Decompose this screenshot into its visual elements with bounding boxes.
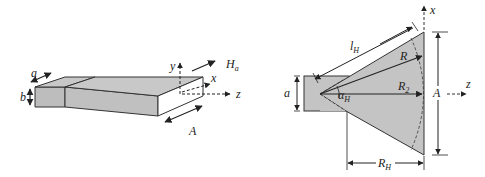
right-cross-section: x lH R R2 αH a A z RH (284, 3, 471, 172)
left-3d-horn: a b y x z Ha A (20, 57, 241, 138)
label-R: R (399, 49, 408, 63)
label-RH: RH (377, 156, 392, 172)
label-A-right: A (432, 86, 441, 100)
label-z-right: z (465, 77, 471, 91)
label-lh: lH (350, 39, 360, 55)
label-a-right: a (284, 86, 290, 100)
label-x: x (210, 71, 217, 85)
label-a: a (31, 66, 37, 80)
label-z: z (235, 87, 241, 101)
label-A: A (188, 124, 197, 138)
label-ha: Ha (225, 57, 239, 73)
label-x-right: x (429, 3, 436, 17)
ha-field-arrow (192, 61, 215, 71)
waveguide-front-face (35, 87, 65, 107)
label-b: b (20, 90, 26, 104)
label-y: y (169, 59, 176, 73)
horn-antenna-diagram: a b y x z Ha A x (0, 0, 485, 177)
